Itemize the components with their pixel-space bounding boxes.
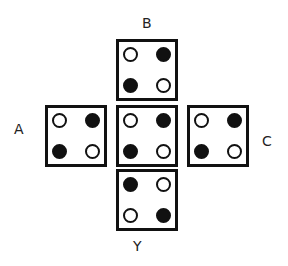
empty-circle-icon	[85, 144, 100, 159]
label-c: C	[262, 134, 272, 148]
empty-circle-icon	[156, 144, 171, 159]
filled-circle-icon	[123, 78, 138, 93]
filled-circle-icon	[194, 144, 209, 159]
face-bottom-y	[116, 169, 178, 231]
filled-circle-icon	[227, 113, 242, 128]
face-left-a	[45, 105, 107, 167]
empty-circle-icon	[52, 113, 67, 128]
label-b: B	[142, 16, 152, 30]
empty-circle-icon	[123, 208, 138, 223]
label-a: A	[14, 122, 24, 136]
filled-circle-icon	[123, 144, 138, 159]
face-center	[116, 105, 178, 167]
empty-circle-icon	[123, 113, 138, 128]
face-top-b	[116, 39, 178, 101]
filled-circle-icon	[156, 208, 171, 223]
empty-circle-icon	[194, 113, 209, 128]
filled-circle-icon	[85, 113, 100, 128]
filled-circle-icon	[156, 47, 171, 62]
empty-circle-icon	[156, 78, 171, 93]
filled-circle-icon	[123, 177, 138, 192]
face-right-c	[187, 105, 249, 167]
filled-circle-icon	[156, 113, 171, 128]
filled-circle-icon	[52, 144, 67, 159]
label-y: Y	[133, 239, 142, 253]
empty-circle-icon	[156, 177, 171, 192]
empty-circle-icon	[227, 144, 242, 159]
empty-circle-icon	[123, 47, 138, 62]
